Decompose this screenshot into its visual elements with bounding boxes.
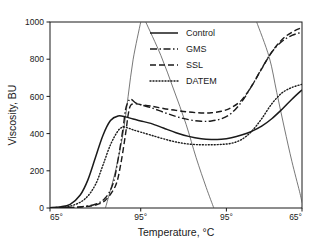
y-axis-title: Viscosity, BU xyxy=(6,85,18,146)
y-tick-label: 800 xyxy=(30,54,44,64)
x-tick-label: 95° xyxy=(220,212,233,222)
y-tick-label: 0 xyxy=(39,203,44,213)
y-tick-label: 600 xyxy=(30,92,44,102)
y-tick-label: 400 xyxy=(30,129,44,139)
legend-label-gms: GMS xyxy=(186,44,207,54)
x-tick-label: 95° xyxy=(134,212,147,222)
x-tick-label: 65° xyxy=(289,212,302,222)
x-axis-title: Temperature, °C xyxy=(138,226,215,238)
legend-label-control: Control xyxy=(186,28,215,38)
legend-label-ssl: SSL xyxy=(186,60,203,70)
x-tick-label: 65° xyxy=(50,212,63,222)
y-tick-label: 1000 xyxy=(25,17,44,27)
legend-label-datem: DATEM xyxy=(186,76,217,86)
chart-svg: 02004006008001000 65°95°95°65° Temperatu… xyxy=(0,0,319,241)
y-tick-label: 200 xyxy=(30,166,44,176)
chart-background xyxy=(0,0,319,241)
viscosity-temperature-chart: 02004006008001000 65°95°95°65° Temperatu… xyxy=(0,0,319,241)
